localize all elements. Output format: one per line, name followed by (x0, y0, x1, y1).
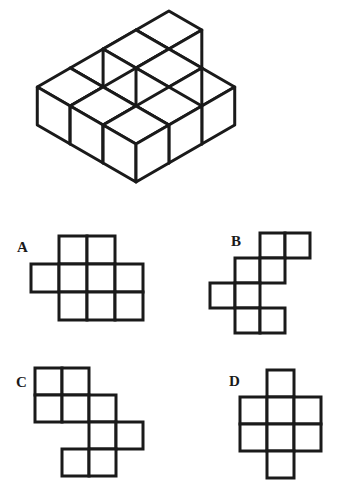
net-cell (260, 258, 285, 283)
net-cell (89, 395, 116, 422)
option-a-label: A (17, 240, 28, 255)
net-cell (294, 424, 321, 451)
net-cell (235, 308, 260, 333)
option-b-net-svg (207, 230, 313, 336)
net-cell (267, 397, 294, 424)
net-cell (115, 292, 143, 320)
net-cell (89, 449, 116, 476)
option-c-grid[interactable] (32, 365, 146, 479)
net-cell (62, 449, 89, 476)
option-a-net-svg (28, 233, 146, 323)
option-a-grid[interactable] (28, 233, 146, 323)
net-cell (35, 395, 62, 422)
net-cell (59, 236, 87, 264)
option-d-grid[interactable] (237, 367, 324, 481)
net-cell (235, 258, 260, 283)
option-c-net-svg (32, 365, 146, 479)
net-cell (89, 422, 116, 449)
net-cell (87, 292, 115, 320)
option-b-grid[interactable] (207, 230, 313, 336)
cube-figure (0, 0, 350, 210)
net-cell (59, 264, 87, 292)
net-cell (240, 397, 267, 424)
net-cell (294, 397, 321, 424)
answer-options: A B C D (0, 210, 350, 496)
net-cell (285, 233, 310, 258)
net-cell (210, 283, 235, 308)
net-cell (87, 236, 115, 264)
isometric-cube-svg (0, 0, 350, 210)
net-cell (260, 308, 285, 333)
net-cell (62, 368, 89, 395)
net-cell (267, 370, 294, 397)
net-cell (115, 264, 143, 292)
net-cell (59, 292, 87, 320)
option-c-label: C (16, 375, 27, 390)
option-a[interactable]: A (0, 220, 175, 350)
net-cell (87, 264, 115, 292)
net-cell (31, 264, 59, 292)
option-b[interactable]: B (175, 218, 350, 350)
net-cell (267, 451, 294, 478)
net-cell (235, 283, 260, 308)
option-c[interactable]: C (0, 355, 175, 495)
option-d-net-svg (237, 367, 324, 481)
net-cell (35, 368, 62, 395)
net-cell (116, 422, 143, 449)
net-cell (260, 233, 285, 258)
net-cell (62, 395, 89, 422)
option-d[interactable]: D (175, 360, 350, 495)
net-cell (267, 424, 294, 451)
net-cell (240, 424, 267, 451)
